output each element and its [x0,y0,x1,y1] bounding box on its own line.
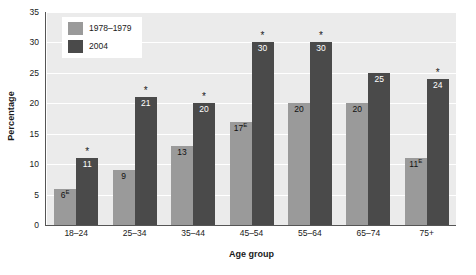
bar[interactable]: 11* [76,158,98,225]
bar-value-label: 20 [193,105,215,114]
bar-value-label: 25 [368,75,390,84]
y-axis-tick-label: 15 [30,129,39,138]
legend-item: 1978–1979 [68,22,132,35]
bar[interactable]: 25 [368,73,390,225]
bar-value-label: 11E [405,160,427,169]
significance-marker: * [135,86,157,96]
bar[interactable]: 20 [288,103,310,225]
bar[interactable]: 17E [230,122,252,225]
y-axis-title: Percentage [2,0,20,232]
bar[interactable]: 13 [171,146,193,225]
bar[interactable]: 24* [427,79,449,225]
bar-value-label: 21 [135,99,157,108]
significance-marker: * [252,31,274,41]
legend-swatch [68,22,83,35]
y-axis-title-label: Percentage [6,91,16,141]
y-axis-tick-label: 5 [34,190,39,199]
bar-group: 11E24* [405,12,449,225]
y-axis-tick-label: 35 [30,8,39,17]
x-axis-tick-label: 35–44 [181,229,205,238]
chart-legend: 1978–19792004 [62,17,142,58]
legend-swatch [68,40,83,53]
significance-marker: * [193,92,215,102]
bar[interactable]: 21* [135,97,157,225]
significance-marker: * [76,147,98,157]
bar-value-label: 17E [230,124,252,133]
x-axis-tick-label: 75+ [420,229,434,238]
bar-group: 2025 [346,12,390,225]
bar-value-label: 13 [171,148,193,157]
bar-chart: Percentage 05101520253035 6E11*921*1320*… [0,0,476,275]
x-axis-tick-label: 25–34 [123,229,147,238]
x-axis-title: Age group [47,249,456,259]
bar[interactable]: 11E [405,158,427,225]
bar[interactable]: 30* [310,42,332,225]
bar[interactable]: 6E [54,189,76,226]
bar-value-label: 30 [310,44,332,53]
y-axis-tick-label: 10 [30,160,39,169]
legend-label: 1978–1979 [89,24,132,33]
x-axis-tick-label: 55–64 [298,229,322,238]
bar[interactable]: 30* [252,42,274,225]
legend-label: 2004 [89,42,108,51]
x-axis-tick-label: 45–54 [240,229,264,238]
legend-item: 2004 [68,40,132,53]
bar-value-label: 30 [252,44,274,53]
y-axis-tick-labels: 05101520253035 [20,12,42,225]
bar-value-label: 11 [76,160,98,169]
bar-value-label: 9 [113,172,135,181]
y-axis-tick-label: 25 [30,69,39,78]
x-axis-tick-label: 65–74 [357,229,381,238]
y-axis-tick-label: 30 [30,38,39,47]
x-axis-tick-labels: 18–2425–3435–4445–5455–6465–7475+ [47,229,456,243]
bar-group: 17E30* [230,12,274,225]
bar-value-label: 20 [346,105,368,114]
x-axis-tick-label: 18–24 [64,229,88,238]
bar[interactable]: 20* [193,103,215,225]
y-axis-tick-label: 20 [30,99,39,108]
significance-marker: * [427,68,449,78]
bar[interactable]: 9 [113,170,135,225]
bar-value-label: 6E [54,191,76,200]
y-axis-tick-label: 0 [34,221,39,230]
bar-value-label: 20 [288,105,310,114]
bar-group: 2030* [288,12,332,225]
x-axis-line [45,225,456,226]
bar[interactable]: 20 [346,103,368,225]
bar-group: 1320* [171,12,215,225]
bar-value-label: 24 [427,81,449,90]
significance-marker: * [310,31,332,41]
